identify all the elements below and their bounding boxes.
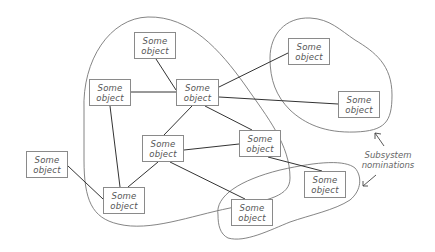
object-box-center-right[interactable]: Some object bbox=[239, 130, 281, 157]
object-label-line1: Some bbox=[240, 203, 265, 213]
diagram-canvas bbox=[0, 0, 435, 252]
object-label-line1: Some bbox=[347, 95, 372, 105]
object-label-line2: object bbox=[96, 93, 123, 103]
object-label-line2: object bbox=[184, 93, 211, 103]
object-box-bottom-left[interactable]: Some object bbox=[103, 187, 145, 214]
object-box-bottom-right[interactable]: Some object bbox=[304, 171, 346, 198]
object-label-line1: Some bbox=[112, 191, 137, 201]
subsystem-nominations-label: Subsystem nominations bbox=[360, 150, 416, 170]
connector-o3-o7 bbox=[205, 106, 252, 130]
object-box-far-left[interactable]: Some object bbox=[26, 151, 68, 178]
object-label-line1: Some bbox=[151, 139, 176, 149]
object-box-bottom[interactable]: Some object bbox=[231, 199, 273, 226]
annotation-line1: Subsystem bbox=[360, 150, 416, 160]
connector-o6-o9 bbox=[128, 162, 158, 187]
object-box-center[interactable]: Some object bbox=[142, 135, 184, 162]
object-label-line1: Some bbox=[98, 83, 123, 93]
connector-o2-o9 bbox=[110, 106, 120, 187]
connector-o3-o5 bbox=[219, 97, 338, 104]
object-box-top-right[interactable]: Some object bbox=[288, 38, 330, 65]
object-label-line2: object bbox=[311, 185, 338, 195]
object-box-left-mid[interactable]: Some object bbox=[89, 79, 131, 106]
object-label-line1: Some bbox=[313, 175, 338, 185]
object-label-line2: object bbox=[33, 165, 60, 175]
connector-o6-o7 bbox=[184, 144, 239, 150]
object-label-line2: object bbox=[246, 144, 273, 154]
object-label-line1: Some bbox=[143, 36, 168, 46]
connector-o3-o4 bbox=[219, 53, 288, 87]
arrow-down-left bbox=[363, 175, 376, 186]
object-box-top[interactable]: Some object bbox=[134, 32, 176, 59]
connector-o1-o3 bbox=[156, 59, 176, 90]
object-label-line1: Some bbox=[185, 83, 210, 93]
connector-o3-o6 bbox=[164, 106, 192, 135]
connector-o8-o9 bbox=[68, 166, 103, 199]
object-label-line2: object bbox=[295, 52, 322, 62]
arrow-up-left bbox=[375, 133, 384, 146]
object-box-hub[interactable]: Some object bbox=[176, 79, 219, 106]
object-label-line2: object bbox=[141, 46, 168, 56]
object-label-line1: Some bbox=[297, 42, 322, 52]
object-label-line2: object bbox=[345, 105, 372, 115]
object-label-line1: Some bbox=[35, 155, 60, 165]
connectors bbox=[68, 53, 338, 199]
object-label-line2: object bbox=[149, 149, 176, 159]
connector-o6-o10 bbox=[170, 162, 245, 199]
object-label-line1: Some bbox=[248, 134, 273, 144]
object-box-right[interactable]: Some object bbox=[338, 91, 380, 118]
object-label-line2: object bbox=[238, 213, 265, 223]
annotation-line2: nominations bbox=[360, 160, 416, 170]
object-label-line2: object bbox=[110, 201, 137, 211]
